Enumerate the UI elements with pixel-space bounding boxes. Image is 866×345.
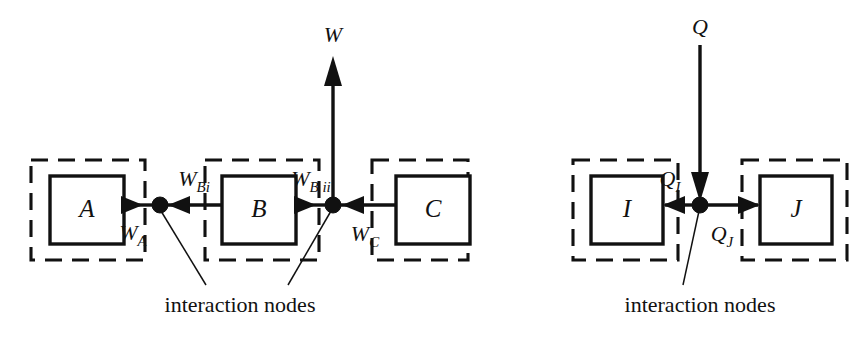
arrow-head-w-bi <box>168 196 190 214</box>
caption-interaction-nodes-right: interaction nodes <box>625 292 776 317</box>
block-j-label: J <box>790 195 803 222</box>
arrow-head-w-c <box>342 196 364 214</box>
block-c-label: C <box>425 195 442 222</box>
block-b-label: B <box>251 195 266 222</box>
flow-label-w-c: WC <box>351 221 380 250</box>
interaction-node-2 <box>325 197 341 213</box>
flow-label-q-external: Q <box>692 14 708 39</box>
flow-label-w-external: W <box>324 22 344 47</box>
interaction-node-3 <box>692 197 708 213</box>
arrow-head-q-i <box>663 196 685 214</box>
flow-label-w-a: WA <box>119 220 147 249</box>
leader-line-node-1 <box>161 211 206 285</box>
leader-line-node-3 <box>683 211 699 285</box>
flow-label-q-j: QJ <box>711 221 735 250</box>
arrow-head-w-bii <box>294 196 316 214</box>
arrow-head-q-j <box>738 196 760 214</box>
diagram-canvas: A B C WA WBi WB ii WC W <box>0 0 866 345</box>
caption-interaction-nodes-left: interaction nodes <box>165 292 316 317</box>
block-a-label: A <box>77 195 95 222</box>
interaction-node-diagram: A B C WA WBi WB ii WC W <box>0 0 866 345</box>
arrow-head-w-a <box>121 196 143 214</box>
arrow-head-w-external <box>324 56 342 86</box>
interaction-node-1 <box>152 197 168 213</box>
flow-label-w-bii: WB ii <box>291 166 331 195</box>
